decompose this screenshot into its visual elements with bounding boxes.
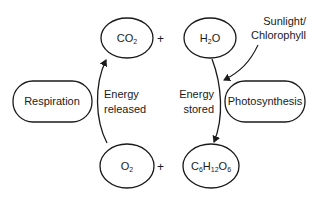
sunlight-line2: Chlorophyll bbox=[250, 28, 306, 42]
o2-label: O bbox=[121, 160, 130, 172]
h2o-node: H2O bbox=[200, 32, 220, 45]
sunlight-arrow bbox=[224, 45, 258, 80]
h2o-label-o: O bbox=[212, 32, 221, 44]
co2-node: CO2 bbox=[117, 32, 137, 45]
glucose-c: C bbox=[191, 160, 199, 172]
glucose-h: H bbox=[203, 160, 211, 172]
bottom-plus-sign: + bbox=[157, 161, 164, 174]
energy-released-label: Energy released bbox=[104, 87, 146, 117]
energy-stored-line2: stored bbox=[178, 102, 214, 117]
energy-stored-line1: Energy bbox=[178, 87, 214, 102]
co2-label: CO bbox=[117, 32, 134, 44]
sunlight-chlorophyll-label: Sunlight/ Chlorophyll bbox=[250, 14, 306, 42]
o2-subscript: 2 bbox=[129, 166, 133, 173]
respiration-label: Respiration bbox=[24, 95, 80, 108]
glucose-node: C6H12O6 bbox=[191, 160, 231, 173]
h2o-label-h: H bbox=[200, 32, 208, 44]
sunlight-line1: Sunlight/ bbox=[250, 14, 306, 28]
top-plus-sign: + bbox=[157, 33, 164, 46]
glucose-o-subscript: 6 bbox=[227, 166, 231, 173]
glucose-h-subscript: 12 bbox=[211, 166, 219, 173]
energy-released-line2: released bbox=[104, 102, 146, 117]
photosynthesis-label: Photosynthesis bbox=[228, 95, 303, 108]
energy-released-line1: Energy bbox=[104, 87, 146, 102]
o2-node: O2 bbox=[121, 160, 133, 173]
glucose-o: O bbox=[219, 160, 228, 172]
co2-subscript: 2 bbox=[133, 38, 137, 45]
energy-stored-label: Energy stored bbox=[178, 87, 214, 117]
